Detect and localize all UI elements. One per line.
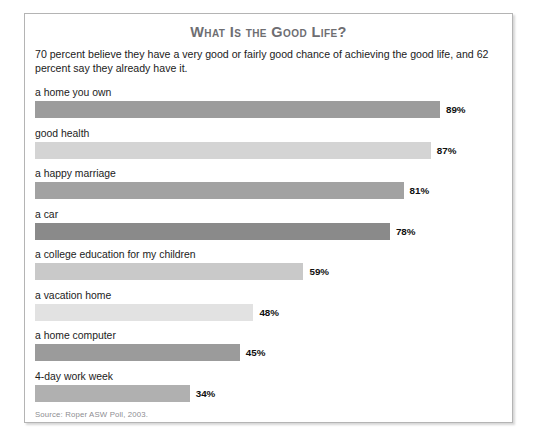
bar-fill: [35, 223, 390, 240]
bar-value-label: 48%: [259, 307, 279, 318]
bar-track: 89%: [35, 101, 502, 118]
bar-row: a home you own89%: [35, 86, 502, 118]
bar-category-label: 4-day work week: [35, 370, 502, 383]
bar-track: 34%: [35, 385, 502, 402]
bar-track: 87%: [35, 142, 502, 159]
bar-row: a vacation home48%: [35, 289, 502, 321]
bar-fill: [35, 385, 190, 402]
bar-category-label: a happy marriage: [35, 167, 502, 180]
bar-category-label: a home you own: [35, 86, 502, 99]
bar-category-label: a car: [35, 208, 502, 221]
bar-row: a home computer45%: [35, 329, 502, 361]
chart-intro-text: 70 percent believe they have a very good…: [35, 47, 502, 75]
bar-value-label: 34%: [196, 388, 216, 399]
bar-category-label: a home computer: [35, 329, 502, 342]
bar-row: a college education for my children59%: [35, 248, 502, 280]
bar-category-label: good health: [35, 127, 502, 140]
bar-value-label: 89%: [446, 104, 466, 115]
bar-category-label: a college education for my children: [35, 248, 502, 261]
bar-track: 78%: [35, 223, 502, 240]
bar-track: 48%: [35, 304, 502, 321]
bar-fill: [35, 142, 431, 159]
chart-source-note: Source: Roper ASW Poll, 2003.: [35, 410, 502, 425]
bar-fill: [35, 182, 404, 199]
bar-track: 81%: [35, 182, 502, 199]
bar-fill: [35, 344, 240, 361]
bar-row: a happy marriage81%: [35, 167, 502, 199]
chart-figure-frame: What Is the Good Life? 70 percent believ…: [24, 13, 513, 423]
bar-fill: [35, 101, 440, 118]
bar-value-label: 59%: [309, 266, 329, 277]
bar-fill: [35, 304, 253, 321]
chart-figure-inner: What Is the Good Life? 70 percent believ…: [25, 14, 512, 425]
bar-fill: [35, 263, 303, 280]
bar-category-label: a vacation home: [35, 289, 502, 302]
bar-track: 45%: [35, 344, 502, 361]
bar-row: 4-day work week34%: [35, 370, 502, 402]
bar-track: 59%: [35, 263, 502, 280]
bar-value-label: 87%: [437, 145, 457, 156]
bar-value-label: 78%: [396, 226, 416, 237]
bar-row: a car78%: [35, 208, 502, 240]
page-title: What Is the Good Life?: [35, 24, 502, 40]
bar-row: good health87%: [35, 127, 502, 159]
bar-chart: a home you own89%good health87%a happy m…: [35, 86, 502, 402]
bar-value-label: 45%: [246, 347, 266, 358]
bar-value-label: 81%: [410, 185, 430, 196]
